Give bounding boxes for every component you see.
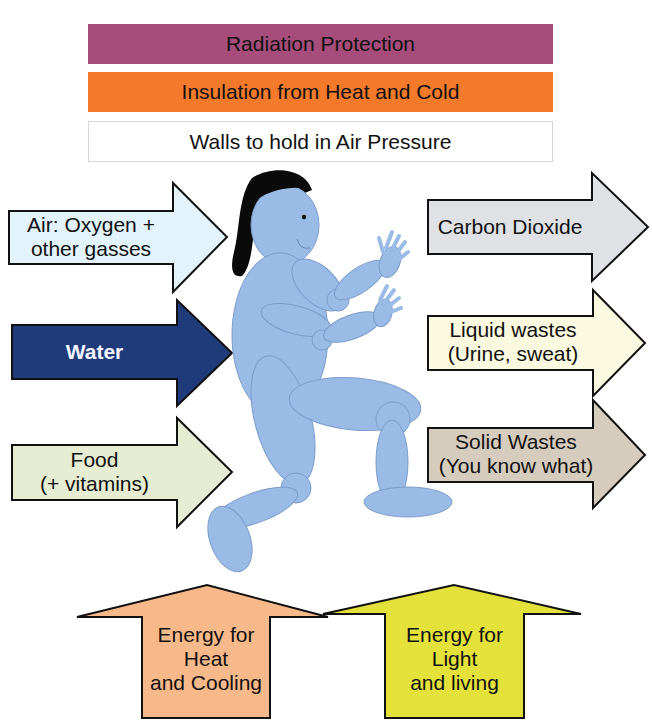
food-input-line1: Food [12, 448, 177, 472]
air-input-line1: Air: Oxygen + [9, 213, 173, 237]
food-input-label: Food (+ vitamins) [12, 448, 177, 496]
liquid-wastes-line2: (Urine, sweat) [428, 342, 598, 366]
carbon-dioxide-line1: Carbon Dioxide [428, 215, 592, 239]
food-input-line2: (+ vitamins) [12, 472, 177, 496]
energy-light-line3: and living [385, 671, 524, 695]
air-input-label: Air: Oxygen + other gasses [9, 213, 173, 261]
water-input-line1: Water [12, 340, 177, 364]
carbon-dioxide-label: Carbon Dioxide [428, 215, 592, 239]
energy-light-label: Energy for Light and living [385, 623, 524, 695]
water-input-label: Water [12, 340, 177, 364]
solid-wastes-label: Solid Wastes (You know what) [428, 430, 604, 478]
energy-heat-line1: Energy for [136, 623, 276, 647]
energy-light-line2: Light [385, 647, 524, 671]
energy-light-line1: Energy for [385, 623, 524, 647]
human-figure [200, 170, 452, 578]
energy-heat-line3: and Cooling [136, 671, 276, 695]
energy-heat-label: Energy for Heat and Cooling [136, 623, 276, 695]
liquid-wastes-label: Liquid wastes (Urine, sweat) [428, 318, 598, 366]
foot-right [364, 487, 452, 517]
solid-wastes-line1: Solid Wastes [428, 430, 604, 454]
energy-heat-line2: Heat [136, 647, 276, 671]
liquid-wastes-line1: Liquid wastes [428, 318, 598, 342]
eye [302, 215, 306, 219]
air-input-line2: other gasses [9, 237, 173, 261]
solid-wastes-line2: (You know what) [428, 454, 604, 478]
